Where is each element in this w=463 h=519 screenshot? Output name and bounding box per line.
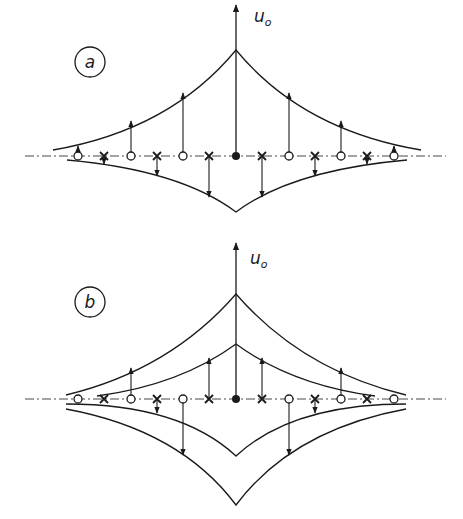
open-circle-atom-icon — [337, 395, 345, 403]
panel-label-b: b — [85, 292, 96, 312]
inner-lower-envelope-curve — [66, 404, 406, 456]
panel-a: uo a — [25, 5, 446, 212]
panel-label-a: a — [85, 52, 95, 72]
filled-circle-atom-icon — [232, 152, 240, 160]
lattice-displacement-diagram: uo a uo b — [0, 0, 463, 519]
open-circle-atom-icon — [179, 395, 187, 403]
open-circle-atom-icon — [74, 152, 82, 160]
outer-lower-envelope-curve — [66, 409, 406, 505]
open-circle-atom-icon — [179, 152, 187, 160]
axis-label-uo: uo — [250, 248, 268, 271]
open-circle-atom-icon — [285, 152, 293, 160]
axis-label-uo: uo — [254, 6, 272, 29]
open-circle-atom-icon — [337, 152, 345, 160]
upper-envelope-curve — [53, 50, 421, 150]
panel-b: uo b — [25, 243, 446, 505]
lower-envelope-curve — [67, 160, 407, 212]
open-circle-atom-icon — [390, 395, 398, 403]
open-circle-atom-icon — [74, 395, 82, 403]
open-circle-atom-icon — [390, 152, 398, 160]
filled-circle-atom-icon — [232, 395, 240, 403]
open-circle-atom-icon — [127, 395, 135, 403]
open-circle-atom-icon — [285, 395, 293, 403]
open-circle-atom-icon — [127, 152, 135, 160]
